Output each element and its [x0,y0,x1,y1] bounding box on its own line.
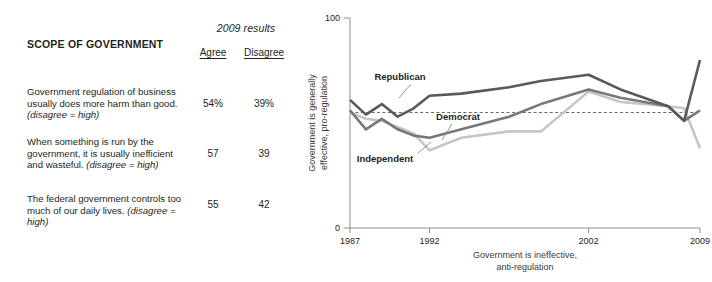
x-tick-label-1992: 1992 [420,236,440,246]
leader-line-republican [399,84,411,98]
statement-text: Government regulation of business usuall… [27,86,187,121]
cell-agree: 55 [193,199,233,210]
y-axis-title-line1: Government is generally [307,74,317,172]
page-title: SCOPE OF GOVERNMENT [27,38,163,50]
series-line-independent [350,92,700,151]
x-axis-title-line2: anti-regulation [496,262,553,272]
chart-canvas: 100 0 Government is generally effective,… [300,0,712,282]
cell-disagree: 39 [238,148,290,159]
column-header-disagree: Disagree [238,47,290,58]
results-year-header: 2009 results [196,22,296,34]
statement-note: (disagree = high) [27,109,99,120]
series-label-republican: Republican [374,71,425,82]
y-tick-label-0: 0 [335,223,340,233]
statement-text: The federal government controls too much… [27,193,187,228]
statement-main: Government regulation of business usuall… [27,86,177,109]
x-axis-ticks: 1987199220022009 [340,228,710,246]
statement-text: When something is run by the government,… [27,136,187,171]
y-axis-title: Government is generally effective, pro-r… [307,74,329,172]
x-tick-label-2002: 2002 [579,236,599,246]
statement-note: (disagree = high) [86,159,158,170]
series-label-democrat: Democrat [436,111,481,122]
party-trend-line-chart: 100 0 Government is generally effective,… [300,0,712,282]
column-header-agree: Agree [193,47,233,58]
x-tick-label-2009: 2009 [690,236,710,246]
scope-of-government-table: 2009 results SCOPE OF GOVERNMENT Agree D… [0,0,300,282]
x-tick-label-1987: 1987 [340,236,360,246]
cell-disagree: 39% [238,98,290,109]
x-axis-title-line1: Government is ineffective, [473,250,577,260]
y-tick-label-100: 100 [325,13,340,23]
cell-disagree: 42 [238,199,290,210]
cell-agree: 57 [193,148,233,159]
cell-agree: 54% [193,98,233,109]
y-axis-title-line2: effective, pro-regulation [319,76,329,170]
series-label-independent: Independent [357,153,414,164]
figure-root: 2009 results SCOPE OF GOVERNMENT Agree D… [0,0,712,282]
